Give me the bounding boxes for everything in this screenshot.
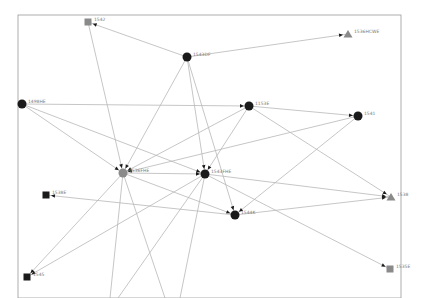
node-label: 1543FHE (211, 169, 231, 174)
square-node-icon (85, 19, 92, 26)
arrowhead-icon (226, 210, 230, 213)
edge (22, 104, 249, 106)
arrowhead-icon (115, 166, 119, 170)
arrowhead-icon (196, 169, 200, 172)
square-node-icon (43, 192, 50, 199)
edge (110, 173, 123, 298)
cluster-node-icon (119, 169, 128, 178)
node-label: 1545 (33, 272, 45, 277)
edge (118, 174, 205, 298)
node-n3[interactable]: 1536HCWE (344, 29, 380, 38)
edge (249, 106, 391, 197)
edge (205, 106, 249, 174)
cluster-node-icon (201, 170, 210, 179)
arrowhead-icon (196, 172, 200, 176)
edge (249, 106, 358, 116)
edge (27, 173, 123, 277)
node-n13[interactable]: 1535E (387, 264, 411, 273)
arrowhead-icon (231, 206, 234, 210)
square-node-icon (387, 266, 394, 273)
edge (22, 104, 205, 174)
edge (235, 197, 391, 215)
node-label: 1541 (364, 111, 376, 116)
node-n4[interactable]: 1498HE (18, 99, 46, 109)
network-diagram: 15421543DF1536HCWE1498HE1153E15411536FHE… (0, 0, 423, 298)
node-n6[interactable]: 1541 (354, 111, 376, 121)
diagram-frame (18, 15, 401, 298)
node-label: 1536HCWE (354, 29, 379, 34)
triangle-node-icon (344, 30, 353, 38)
node-n10[interactable]: 1544K (231, 210, 257, 220)
node-label: 1543DF (193, 52, 211, 57)
arrowhead-icon (93, 23, 97, 26)
cluster-node-icon (231, 211, 240, 220)
edge (187, 57, 235, 215)
cluster-node-icon (18, 100, 27, 109)
edge-layer (22, 22, 391, 298)
arrowhead-icon (382, 191, 386, 195)
node-label: 1542 (94, 17, 106, 22)
arrowhead-icon (240, 104, 244, 108)
node-label: 1498HE (28, 99, 46, 104)
edge (88, 22, 123, 173)
edge (22, 104, 123, 173)
edge (123, 173, 205, 174)
node-label: 1535E (396, 264, 410, 269)
edge (180, 174, 205, 298)
node-n11[interactable]: 1538 (387, 192, 409, 201)
arrowhead-icon (119, 164, 123, 168)
edge (187, 34, 348, 57)
edge (46, 195, 235, 215)
edge (205, 174, 390, 269)
arrowhead-icon (339, 33, 343, 37)
cluster-node-icon (354, 112, 363, 121)
node-n2[interactable]: 1543DF (183, 52, 211, 62)
cluster-node-icon (245, 102, 254, 111)
node-label: 1544K (241, 210, 256, 215)
node-n12[interactable]: 1545 (24, 272, 45, 281)
node-label: 1536FHE (129, 168, 149, 173)
node-n7[interactable]: 1536FHE (119, 168, 150, 178)
node-label: 1538 (397, 192, 409, 197)
node-label: 1538E (52, 190, 66, 195)
node-label: 1153E (255, 101, 269, 106)
edge (88, 22, 187, 57)
node-layer: 15421543DF1536HCWE1498HE1153E15411536FHE… (18, 17, 411, 281)
node-n5[interactable]: 1153E (245, 101, 270, 111)
cluster-node-icon (183, 53, 192, 62)
edge (123, 173, 165, 298)
square-node-icon (24, 274, 31, 281)
edge (205, 174, 391, 197)
arrowhead-icon (202, 165, 206, 169)
